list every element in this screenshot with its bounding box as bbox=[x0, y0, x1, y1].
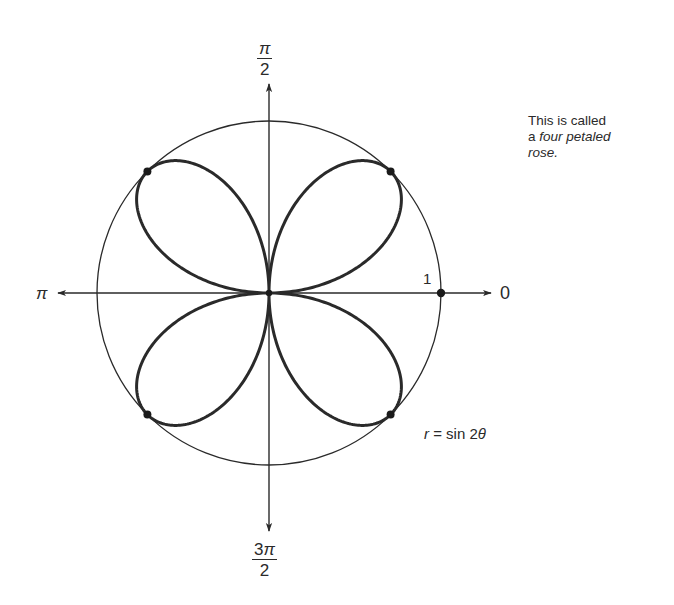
angle-label-bottom-denominator: 2 bbox=[260, 560, 269, 579]
origin-point bbox=[266, 290, 272, 296]
unit-radius-label: 1 bbox=[423, 271, 431, 286]
caption-line-3: rose. bbox=[528, 145, 668, 161]
point-petal-tip-q3 bbox=[143, 411, 151, 419]
angle-label-top-numerator: π bbox=[257, 40, 272, 59]
equation-label: r = sin 2θ bbox=[424, 425, 486, 442]
angle-label-bottom-numerator: 3π bbox=[252, 541, 277, 560]
caption-line-2: a four petaled bbox=[528, 129, 668, 145]
angle-label-3pi-over-2: 3π 2 bbox=[252, 541, 277, 579]
point-petal-tip-q2 bbox=[143, 167, 151, 175]
caption-line-2-prefix: a bbox=[528, 129, 539, 144]
figure-caption: This is called a four petaled rose. bbox=[528, 113, 668, 161]
point-petal-tip-q1 bbox=[387, 167, 395, 175]
angle-label-top-denominator: 2 bbox=[260, 59, 269, 78]
angle-label-pi: π bbox=[36, 285, 47, 302]
caption-line-2-italic: four petaled bbox=[539, 129, 610, 144]
point-petal-tip-q4 bbox=[387, 411, 395, 419]
angle-label-zero: 0 bbox=[500, 284, 510, 302]
angle-label-bottom-pi: π bbox=[263, 540, 274, 559]
equation-coef: 2 bbox=[469, 425, 477, 442]
equation-op: = bbox=[433, 425, 442, 442]
angle-label-pi-over-2: π 2 bbox=[257, 40, 272, 78]
caption-line-1: This is called bbox=[528, 113, 668, 129]
equation-fn: sin bbox=[446, 425, 465, 442]
equation-var: θ bbox=[478, 425, 486, 442]
equation-lhs: r bbox=[424, 425, 429, 442]
polar-rose-figure bbox=[0, 0, 674, 605]
point-unit-radius bbox=[437, 289, 445, 297]
